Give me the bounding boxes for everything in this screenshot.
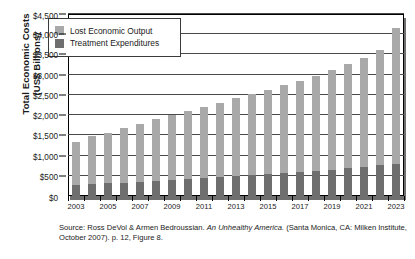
x-axis-tick [196,196,197,201]
bar-2021 [360,58,369,196]
bar-segment-treatment-expenditures [200,178,209,196]
bar-segment-treatment-expenditures [360,167,369,196]
bar-segment-treatment-expenditures [168,180,177,196]
x-axis-tick [324,196,325,201]
bar-segment-lost-economic-output [200,107,209,179]
bar-segment-treatment-expenditures [232,176,241,196]
y-axis-tick-label: $1,000 [33,153,58,158]
x-axis-tick-label: 2011 [196,202,212,211]
bar-segment-lost-economic-output [296,81,305,172]
y-axis-tick-label: $0 [49,194,58,199]
bar-segment-lost-economic-output [152,119,161,180]
x-axis-tick [180,196,181,201]
x-axis-tick [404,196,405,201]
bar-2019 [328,70,337,196]
bar-2018 [312,76,321,196]
x-axis-tick-label: 2005 [100,202,117,211]
x-axis-tick-label: 2013 [228,202,245,211]
x-axis-tick [100,196,101,201]
chart-figure: Total Economic Costs (US$ Billions) $0$5… [0,0,415,259]
bar-segment-lost-economic-output [216,103,225,178]
bar-2017 [296,81,305,196]
bar-segment-treatment-expenditures [88,184,97,196]
x-axis-tick-label: 2003 [68,202,85,211]
x-axis-tick [164,196,165,201]
bar-2010 [184,111,193,196]
x-axis-tick [68,196,69,201]
legend-item-treatment-expenditures: Treatment Expenditures [55,38,174,48]
x-axis-tick [84,196,85,201]
y-axis-tick [59,155,66,156]
bar-2023 [392,28,401,196]
bar-segment-lost-economic-output [376,50,385,165]
bar-segment-treatment-expenditures [216,177,225,196]
x-axis-tick [260,196,261,201]
bar-2011 [200,107,209,196]
bar-segment-lost-economic-output [392,28,401,164]
x-axis-tick-label: 2019 [324,202,341,211]
source-note: Source: Ross DeVol & Armen Bedroussian. … [59,223,409,243]
x-axis-tick-label: 2007 [132,202,149,211]
x-axis-tick [372,196,373,201]
bar-segment-treatment-expenditures [184,179,193,196]
x-axis-tick [228,196,229,201]
x-axis-tick [132,196,133,201]
bar-segment-lost-economic-output [88,136,97,184]
bar-2004 [88,136,97,196]
bar-segment-lost-economic-output [360,58,369,167]
x-axis-tick-label: 2017 [292,202,309,211]
y-axis-tick [59,14,66,15]
bar-2006 [120,128,129,196]
x-axis-tick [116,196,117,201]
x-axis-tick [308,196,309,201]
y-axis-tick-label: $2,500 [33,92,58,97]
y-axis-tick-label: $3,500 [33,52,58,57]
x-axis-tick [276,196,277,201]
x-axis-tick [148,196,149,201]
x-axis: 2003200520072009201120132015201720192021… [68,196,404,220]
bar-segment-lost-economic-output [120,128,129,183]
y-axis-tick [59,74,66,75]
x-axis-tick [292,196,293,201]
bar-2013 [232,98,241,196]
bar-2005 [104,133,113,196]
y-axis-tick [59,94,66,95]
bar-2015 [264,90,273,196]
y-axis-tick-label: $1,500 [33,133,58,138]
bar-segment-treatment-expenditures [312,171,321,196]
bar-segment-lost-economic-output [72,142,81,184]
bar-2020 [344,64,353,196]
x-axis-tick-label: 2023 [388,202,405,211]
y-axis-tick-label: $4,000 [33,32,58,37]
bar-2009 [168,115,177,196]
bar-segment-treatment-expenditures [280,173,289,196]
bar-2016 [280,85,289,196]
bar-segment-treatment-expenditures [72,185,81,196]
x-axis-tick-label: 2009 [164,202,181,211]
bar-segment-treatment-expenditures [248,175,257,196]
bar-2014 [248,94,257,196]
legend-label-treatment-expenditures: Treatment Expenditures [70,38,159,48]
bar-2007 [136,124,145,196]
legend-label-lost-economic-output: Lost Economic Output [70,26,152,36]
y-axis-tick [59,115,66,116]
bar-segment-lost-economic-output [104,133,113,183]
bar-2008 [152,119,161,196]
x-axis-tick [212,196,213,201]
bar-segment-treatment-expenditures [152,181,161,196]
bar-segment-lost-economic-output [312,76,321,171]
bar-segment-treatment-expenditures [120,183,129,196]
bar-segment-lost-economic-output [248,94,257,175]
bar-segment-lost-economic-output [232,98,241,176]
bar-2012 [216,103,225,196]
bar-2003 [72,142,81,196]
y-axis-tick-label: $2,000 [33,113,58,118]
bar-segment-lost-economic-output [328,70,337,169]
bar-segment-treatment-expenditures [344,168,353,196]
bar-segment-lost-economic-output [168,115,177,180]
y-axis: $0$500$1,000$1,500$2,000$2,500$3,000$3,5… [0,14,68,196]
x-axis-tick-label: 2015 [260,202,277,211]
bar-segment-lost-economic-output [136,124,145,181]
bar-segment-treatment-expenditures [104,183,113,196]
bar-segment-lost-economic-output [184,111,193,179]
